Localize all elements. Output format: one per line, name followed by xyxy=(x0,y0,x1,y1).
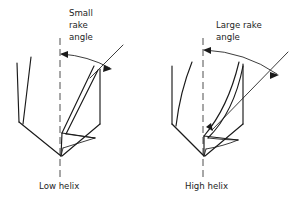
diagram-canvas: Small rake angle Low helix xyxy=(0,0,300,203)
right-drill-caption: High helix xyxy=(185,181,228,191)
drill-rake-angle-diagram: Small rake angle Low helix xyxy=(0,0,300,203)
left-annotation-line-3: angle xyxy=(69,32,93,42)
diagram-background xyxy=(0,0,300,203)
right-annotation-line-2: angle xyxy=(216,32,240,42)
right-annotation-line-1: Large rake xyxy=(216,20,262,30)
left-annotation-line-2: rake xyxy=(69,20,88,30)
left-annotation-line-1: Small xyxy=(69,8,93,18)
left-drill-caption: Low helix xyxy=(39,181,79,191)
